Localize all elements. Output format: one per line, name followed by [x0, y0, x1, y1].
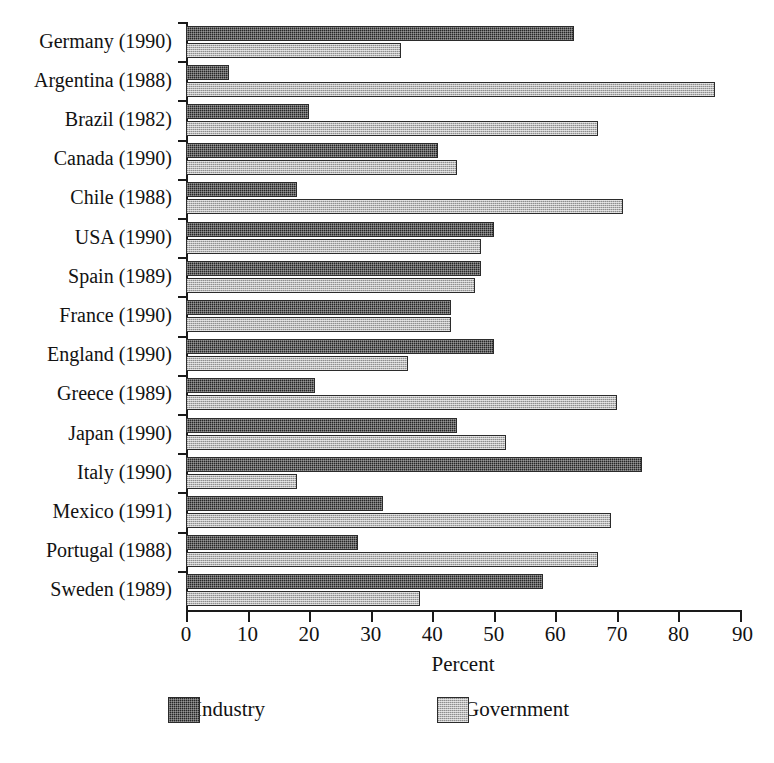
- bar-government: [186, 43, 401, 58]
- x-axis-tick-label: 10: [237, 624, 258, 645]
- bar-government: [186, 356, 408, 371]
- legend-swatch-government: [437, 697, 469, 723]
- x-axis-title: Percent: [186, 652, 740, 677]
- category-label: Canada (1990): [54, 148, 172, 168]
- bar-government: [186, 435, 506, 450]
- bar-industry: [186, 496, 383, 511]
- legend-label-government: Government: [464, 697, 569, 722]
- bar-industry: [186, 143, 438, 158]
- bar-government: [186, 239, 481, 254]
- category-label: Spain (1989): [68, 266, 172, 286]
- bar-government: [186, 278, 475, 293]
- category-label: Argentina (1988): [34, 70, 172, 90]
- bar-industry: [186, 104, 309, 119]
- x-axis-tick-label: 30: [360, 624, 381, 645]
- bar-government: [186, 199, 623, 214]
- bar-industry: [186, 261, 481, 276]
- x-axis-tick-label: 0: [181, 624, 192, 645]
- category-label: USA (1990): [75, 227, 172, 247]
- category-label: Sweden (1989): [50, 579, 172, 599]
- x-axis-tick: [494, 612, 496, 622]
- chart-legend: Industry Government: [0, 697, 774, 737]
- category-labels: Germany (1990)Argentina (1988)Brazil (19…: [0, 22, 180, 610]
- category-label: Italy (1990): [77, 462, 172, 482]
- legend-swatch-industry: [168, 697, 200, 723]
- x-axis-tick: [186, 612, 188, 622]
- bar-chart: Germany (1990)Argentina (1988)Brazil (19…: [0, 0, 774, 763]
- x-axis-tick-label: 60: [545, 624, 566, 645]
- category-label: Germany (1990): [39, 31, 172, 51]
- plot-area: [186, 22, 740, 610]
- bar-industry: [186, 26, 574, 41]
- x-axis-tick-label: 80: [668, 624, 689, 645]
- bar-industry: [186, 378, 315, 393]
- bar-government: [186, 121, 598, 136]
- category-label: Greece (1989): [57, 383, 172, 403]
- bar-industry: [186, 457, 642, 472]
- x-axis-tick-label: 50: [483, 624, 504, 645]
- category-label: Japan (1990): [68, 423, 172, 443]
- legend-label-industry: Industry: [195, 697, 265, 722]
- x-axis-tick: [309, 612, 311, 622]
- category-label: Brazil (1982): [65, 109, 172, 129]
- bar-industry: [186, 65, 229, 80]
- legend-item-government: Government: [437, 697, 569, 722]
- x-axis-tick: [678, 612, 680, 622]
- bar-industry: [186, 222, 494, 237]
- x-axis-tick-label: 40: [422, 624, 443, 645]
- x-axis-tick-label: 20: [299, 624, 320, 645]
- bar-industry: [186, 535, 358, 550]
- category-label: England (1990): [47, 344, 172, 364]
- bar-government: [186, 591, 420, 606]
- bar-government: [186, 82, 715, 97]
- bar-industry: [186, 182, 297, 197]
- bar-industry: [186, 300, 451, 315]
- x-axis-tick-label: 70: [606, 624, 627, 645]
- bar-government: [186, 160, 457, 175]
- bar-industry: [186, 339, 494, 354]
- x-axis-tick: [248, 612, 250, 622]
- category-label: Mexico (1991): [53, 501, 172, 521]
- bar-government: [186, 552, 598, 567]
- legend-item-industry: Industry: [168, 697, 265, 722]
- x-axis-tick: [617, 612, 619, 622]
- x-axis-tick: [371, 612, 373, 622]
- x-axis-tick-label: 90: [732, 624, 753, 645]
- x-axis-tick: [740, 612, 742, 622]
- x-axis-line: [186, 610, 742, 612]
- category-label: France (1990): [59, 305, 172, 325]
- x-axis-tick: [432, 612, 434, 622]
- bar-government: [186, 317, 451, 332]
- bar-government: [186, 395, 617, 410]
- x-axis-tick: [555, 612, 557, 622]
- bar-industry: [186, 418, 457, 433]
- category-label: Portugal (1988): [46, 540, 172, 560]
- category-label: Chile (1988): [70, 187, 172, 207]
- bar-industry: [186, 574, 543, 589]
- bar-government: [186, 474, 297, 489]
- bar-government: [186, 513, 611, 528]
